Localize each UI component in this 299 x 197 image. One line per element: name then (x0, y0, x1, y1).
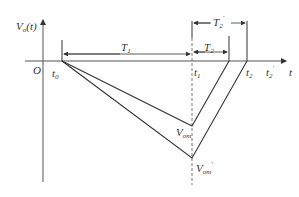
t1-label: t1 (194, 66, 201, 80)
t2-prime-label: t2′ (266, 64, 275, 80)
t2-interval-label: T2 (204, 41, 214, 55)
integrator-waveform-diagram: Vo(t) t O T1 T2 T2′ t0 t1 t2 t2′ Vom Vom… (0, 0, 299, 197)
waveform-vom-prime (62, 61, 247, 158)
t0-label: t0 (52, 67, 59, 81)
t2-label: t2 (246, 66, 253, 80)
waveform-vom (62, 61, 229, 126)
vom-prime-label: Vom′ (196, 160, 213, 176)
origin-label: O (33, 64, 41, 76)
t1-interval-label: T1 (121, 41, 131, 55)
vom-label: Vom (176, 126, 191, 140)
x-axis-label: t (289, 66, 293, 78)
y-axis-label: Vo(t) (16, 20, 37, 34)
